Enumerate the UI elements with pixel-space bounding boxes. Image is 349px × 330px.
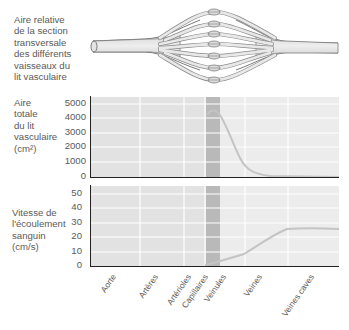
area-chart-plot	[0, 0, 349, 330]
velocity-ytick: 20	[48, 230, 82, 241]
velocity-ytick: 0	[48, 259, 82, 270]
velocity-ytick: 40	[48, 201, 82, 212]
velocity-ytick: 50	[48, 187, 82, 198]
velocity-ytick: 30	[48, 216, 82, 227]
velocity-ytick: 10	[48, 245, 82, 256]
